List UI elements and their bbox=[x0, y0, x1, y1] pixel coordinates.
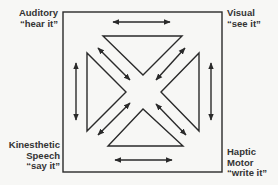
label-line: “see it” bbox=[227, 19, 261, 30]
arrow-diag-bottomleft bbox=[98, 103, 130, 135]
arrow-diag-topright bbox=[156, 48, 185, 80]
arrow-diag-bottomright bbox=[156, 104, 186, 135]
triangle-right bbox=[161, 53, 199, 131]
label-line: Haptic bbox=[227, 147, 267, 158]
corner-label-kinesthetic: Kinesthetic Speech “say it” bbox=[2, 140, 60, 172]
triangle-left bbox=[87, 53, 126, 131]
triangle-top bbox=[103, 36, 182, 75]
label-line: “hear it” bbox=[2, 19, 58, 30]
corner-label-haptic: Haptic Motor “write it” bbox=[227, 147, 267, 179]
arrow-diag-topleft bbox=[98, 48, 130, 80]
label-line: “say it” bbox=[2, 161, 60, 172]
label-line: “write it” bbox=[227, 168, 267, 179]
label-line: Visual bbox=[227, 8, 261, 19]
corner-label-auditory: Auditory “hear it” bbox=[2, 8, 58, 29]
corner-label-visual: Visual “see it” bbox=[227, 8, 261, 29]
label-line: Kinesthetic bbox=[2, 140, 60, 151]
label-line: Auditory bbox=[2, 8, 58, 19]
